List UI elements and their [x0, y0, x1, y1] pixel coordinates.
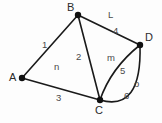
face-label-n: n	[54, 62, 59, 72]
face-label-o: o	[134, 79, 139, 89]
vertex-c-dot	[97, 97, 103, 103]
face-label-outer-L: L	[108, 10, 113, 20]
edge-label-3: 3	[56, 93, 61, 103]
vertex-label-c: C	[95, 105, 103, 116]
edge-label-4: 4	[113, 26, 118, 36]
edge-label-2: 2	[76, 52, 81, 62]
vertex-label-a: A	[9, 72, 16, 83]
vertex-a-dot	[19, 75, 25, 81]
vertex-label-d: D	[145, 32, 153, 43]
vertex-b-dot	[75, 12, 81, 18]
face-label-m: m	[107, 53, 115, 63]
graph-canvas	[0, 0, 162, 123]
edge-label-5: 5	[120, 66, 125, 76]
edge-1-path	[22, 15, 78, 78]
vertex-d-dot	[137, 42, 143, 48]
graph-diagram: A B C D 1 2 3 4 5 6 n m o L	[0, 0, 162, 123]
edge-label-1: 1	[42, 40, 47, 50]
vertex-label-b: B	[67, 2, 74, 13]
edge-2-path	[78, 15, 100, 100]
edge-label-6: 6	[124, 91, 129, 101]
